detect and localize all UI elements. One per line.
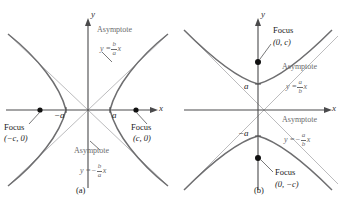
eq-fraction: a b xyxy=(301,132,307,148)
panel-b-asymptote-lower-equation: y = − a b x xyxy=(284,132,310,148)
eq-lead: y = xyxy=(286,83,297,91)
eq-tail: x xyxy=(117,45,121,53)
eq-tail: x xyxy=(303,83,307,91)
panel-b-y-axis-label: y xyxy=(261,10,265,19)
eq-sign: − xyxy=(295,136,300,144)
panel-b-focus-lower-coord: (0, −c) xyxy=(275,180,299,189)
panel-a-caption: (a) xyxy=(76,186,85,195)
panel-b-graph xyxy=(176,0,352,204)
panel-b-vertical-hyperbola: x y a −a Focus (0, c) Focus (0, −c) Asym… xyxy=(176,0,352,204)
panel-a-asymptote-upper-equation: y = b a x xyxy=(100,41,121,57)
panel-b-focus-lower-word: Focus xyxy=(275,168,295,177)
focus-dot-left xyxy=(37,107,42,112)
panel-a-focus-left-coord: (−c, 0) xyxy=(4,134,28,143)
panel-b-vertex-lower-label: −a xyxy=(238,129,249,138)
panel-a-vertex-left-label: −a xyxy=(54,111,65,120)
eq-lead: y = xyxy=(80,167,91,175)
focus-dot-lower xyxy=(255,155,261,161)
panel-a-vertex-right-label: a xyxy=(112,111,117,120)
panel-a-asymptote-lower-word: Asymptote xyxy=(74,147,109,155)
eq-lead: y = xyxy=(100,45,111,53)
panel-b-asymptote-upper-equation: y = a b x xyxy=(286,79,307,95)
eq-tail: x xyxy=(103,167,107,175)
eq-denominator: a xyxy=(97,172,103,179)
panel-a-focus-right-word: Focus xyxy=(131,123,151,132)
axes-a xyxy=(6,24,152,188)
panel-a-focus-left-word: Focus xyxy=(4,123,24,132)
panel-a-x-axis-label: x xyxy=(159,104,163,113)
eq-sign: − xyxy=(91,167,96,175)
panel-a-horizontal-hyperbola: x y −a a Focus (−c, 0) Focus (c, 0) Asym… xyxy=(0,0,176,204)
panel-b-vertex-upper-label: a xyxy=(244,82,249,91)
panel-b-focus-upper-coord: (0, c) xyxy=(273,38,291,47)
eq-fraction: b a xyxy=(97,163,103,179)
focus-dot-upper xyxy=(255,59,261,65)
eq-denominator: b xyxy=(301,141,307,148)
panel-a-focus-right-coord: (c, 0) xyxy=(133,134,151,143)
panel-a-y-axis-label: y xyxy=(91,10,95,19)
panel-a-asymptote-lower-equation: y = − b a x xyxy=(80,163,106,179)
panel-b-asymptote-upper-word: Asymptote xyxy=(282,63,317,71)
focus-dot-right xyxy=(133,107,138,112)
eq-numerator: a xyxy=(301,132,307,139)
eq-numerator: b xyxy=(97,163,103,170)
panel-a-asymptote-upper-word: Asymptote xyxy=(97,26,132,34)
hyperbola-figure: x y −a a Focus (−c, 0) Focus (c, 0) Asym… xyxy=(0,0,352,204)
panel-b-focus-upper-word: Focus xyxy=(273,26,293,35)
eq-lead: y = xyxy=(284,136,295,144)
panel-b-x-axis-label: x xyxy=(332,104,336,113)
eq-tail: x xyxy=(307,136,311,144)
panel-b-caption: (b) xyxy=(254,186,264,195)
panel-b-asymptote-lower-word: Asymptote xyxy=(282,116,317,124)
